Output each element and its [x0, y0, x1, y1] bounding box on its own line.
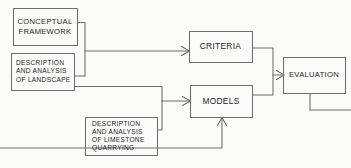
edge-framework-to-junction [78, 23, 86, 77]
edge-models-to-evaluation [253, 75, 274, 95]
edge-landscape-to-models [75, 87, 163, 102]
node-box-description-landscape [12, 54, 75, 91]
node-box-models [191, 86, 253, 118]
node-box-description-limestone [86, 118, 158, 156]
diagram-canvas: CONCEPTUAL FRAMEWORK DESCRIPTION AND ANA… [0, 0, 351, 168]
node-box-conceptual-framework [14, 9, 78, 46]
node-box-criteria [190, 32, 253, 63]
diagram-connectors-layer [0, 0, 351, 168]
edge-criteria-to-evaluation [253, 48, 274, 75]
edge-limestone-to-models-bottom [0, 119, 222, 149]
edge-limestone-to-riser [158, 101, 163, 130]
node-box-evaluation [284, 58, 346, 94]
